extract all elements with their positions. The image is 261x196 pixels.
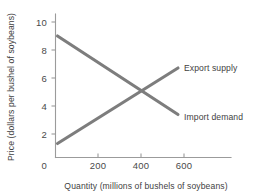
x-tick-label-200: 200 bbox=[90, 160, 106, 171]
x-tick-label-400: 400 bbox=[133, 160, 149, 171]
supply-demand-chart: 10 8 6 4 2 0 200 400 600 Export supply I… bbox=[0, 0, 261, 196]
y-tick-label-4: 4 bbox=[42, 101, 47, 112]
y-tick-label-2: 2 bbox=[42, 129, 47, 140]
export-supply-label: Export supply bbox=[184, 63, 238, 73]
x-tick-label-600: 600 bbox=[176, 160, 192, 171]
import-demand-label: Import demand bbox=[184, 112, 243, 122]
y-tick-label-8: 8 bbox=[42, 45, 47, 56]
y-axis-title: Price (dollars per bushel of soybeans) bbox=[6, 13, 16, 161]
chart-figure: 10 8 6 4 2 0 200 400 600 Export supply I… bbox=[0, 0, 261, 196]
y-tick-label-10: 10 bbox=[36, 17, 47, 28]
y-tick-label-6: 6 bbox=[42, 73, 47, 84]
export-supply-line bbox=[58, 68, 179, 144]
x-axis-title: Quantity (millions of bushels of soybean… bbox=[64, 181, 227, 191]
import-demand-line bbox=[58, 36, 179, 115]
y-tick-label-0: 0 bbox=[42, 160, 47, 171]
